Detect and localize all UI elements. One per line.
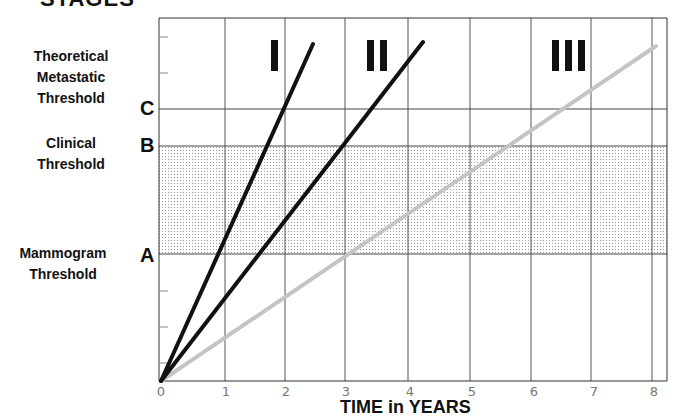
x-tick: 0 <box>157 384 165 399</box>
x-tick: 7 <box>590 384 598 399</box>
x-tick: 1 <box>222 384 230 399</box>
chart-plot: 0 1 2 3 4 5 6 7 8 <box>0 0 678 420</box>
stage-1-label <box>271 40 278 71</box>
x-axis-title: TIME in YEARS <box>340 397 471 418</box>
x-tick: 6 <box>530 384 538 399</box>
x-tick: 2 <box>282 384 290 399</box>
stage-2-label <box>367 40 387 71</box>
stage-3-label <box>552 40 585 71</box>
x-tick: 8 <box>650 384 658 399</box>
